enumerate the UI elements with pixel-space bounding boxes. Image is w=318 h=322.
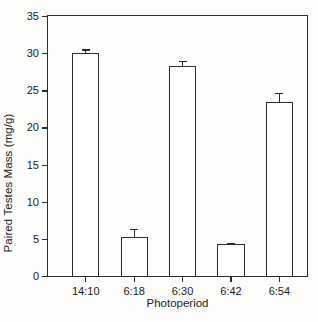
y-tick-mark [42, 127, 48, 128]
y-tick-label: 30 [27, 47, 39, 59]
bars-container [48, 16, 307, 276]
bar-slot [62, 16, 110, 276]
error-bar-cap [82, 49, 90, 50]
error-bar [279, 93, 280, 103]
y-tick-label: 20 [27, 121, 39, 133]
y-tick-label: 0 [33, 270, 39, 282]
x-tick-mark [230, 276, 231, 282]
x-axis-title: Photoperiod [47, 297, 308, 309]
x-tick-mark [85, 276, 86, 282]
x-tick-mark [279, 276, 280, 282]
bar[interactable] [266, 102, 293, 276]
y-tick-mark [42, 239, 48, 240]
y-tick-mark [42, 165, 48, 166]
y-tick-mark [42, 16, 48, 17]
y-axis-title: Paired Testes Mass (mg/g) [0, 0, 16, 322]
error-bar-cap [275, 93, 283, 94]
bar-slot [255, 16, 303, 276]
x-tick-label: 14:10 [72, 285, 100, 297]
y-tick-label: 35 [27, 10, 39, 22]
y-tick-label: 25 [27, 84, 39, 96]
y-tick-mark [42, 276, 48, 277]
y-tick-mark [42, 53, 48, 54]
bar[interactable] [217, 244, 244, 276]
error-bar-cap [227, 243, 235, 244]
y-tick-label: 10 [27, 196, 39, 208]
y-tick-label: 5 [33, 233, 39, 245]
bar[interactable] [72, 53, 99, 276]
error-bar-cap [179, 61, 187, 62]
bar-slot [158, 16, 206, 276]
y-tick-label: 15 [27, 159, 39, 171]
chart-figure: Paired Testes Mass (mg/g) 05101520253035… [0, 0, 318, 322]
x-tick-label: 6:18 [123, 285, 144, 297]
x-tick-label: 6:54 [269, 285, 290, 297]
y-axis-title-text: Paired Testes Mass (mg/g) [2, 113, 14, 252]
bar-slot [207, 16, 255, 276]
error-bar-cap [130, 229, 138, 230]
x-tick-mark [134, 276, 135, 282]
x-tick-mark [182, 276, 183, 282]
plot-area: 0510152025303514:106:186:306:426:54 [47, 15, 308, 277]
x-tick-label: 6:42 [220, 285, 241, 297]
y-tick-mark [42, 202, 48, 203]
x-tick-label: 6:30 [172, 285, 193, 297]
bar-slot [110, 16, 158, 276]
bar[interactable] [169, 66, 196, 276]
y-tick-mark [42, 90, 48, 91]
bar[interactable] [121, 237, 148, 276]
